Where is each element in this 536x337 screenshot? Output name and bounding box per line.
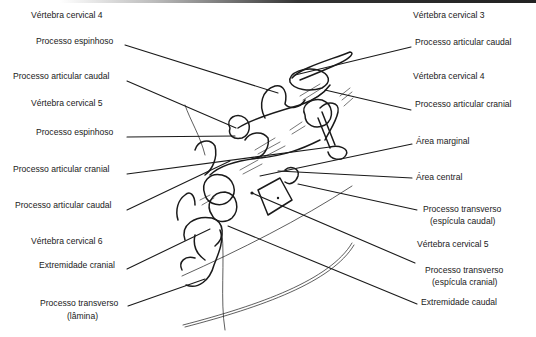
label-processo-transverso-lamina: Processo transverso bbox=[40, 298, 118, 308]
label-processo-transverso-caudal: Processo transverso bbox=[423, 204, 501, 214]
label-processo-articular-cranial-c4: Processo articular cranial bbox=[415, 99, 511, 109]
label-vertebra-cervical-4-right: Vértebra cervical 4 bbox=[413, 71, 485, 81]
label-processo-espinhoso-c5: Processo espinhoso bbox=[36, 127, 113, 137]
label-area-central: Área central bbox=[416, 172, 462, 182]
label-vertebra-cervical-3: Vértebra cervical 3 bbox=[413, 10, 485, 20]
label-processo-articular-caudal-c5: Processo articular caudal bbox=[15, 200, 112, 210]
shading-strokes bbox=[200, 84, 353, 205]
label-vertebra-cervical-4-left: Vértebra cervical 4 bbox=[31, 10, 103, 20]
vertebra-outlines bbox=[177, 52, 352, 286]
label-processo-espinhoso-c4: Processo espinhoso bbox=[36, 36, 113, 46]
label-lamina: (lâmina) bbox=[67, 311, 98, 321]
leader-lines-right bbox=[228, 47, 417, 304]
label-extremidade-caudal: Extremidade caudal bbox=[421, 297, 497, 307]
label-espicula-caudal: (espícula caudal) bbox=[430, 216, 495, 226]
label-processo-articular-caudal-c3: Processo articular caudal bbox=[415, 37, 512, 47]
label-processo-transverso-cranial: Processo transverso bbox=[425, 265, 503, 275]
label-vertebra-cervical-6: Vértebra cervical 6 bbox=[31, 236, 103, 246]
label-extremidade-cranial: Extremidade cranial bbox=[39, 260, 115, 270]
label-area-marginal: Área marginal bbox=[416, 136, 470, 146]
leader-lines-left bbox=[125, 45, 330, 306]
label-processo-articular-caudal-c4: Processo articular caudal bbox=[13, 71, 110, 81]
label-espicula-cranial: (espícula cranial) bbox=[432, 277, 497, 287]
label-vertebra-cervical-5-left: Vértebra cervical 5 bbox=[31, 98, 103, 108]
label-vertebra-cervical-5-right: Vértebra cervical 5 bbox=[417, 239, 489, 249]
label-processo-articular-cranial-c5: Processo articular cranial bbox=[13, 164, 109, 174]
